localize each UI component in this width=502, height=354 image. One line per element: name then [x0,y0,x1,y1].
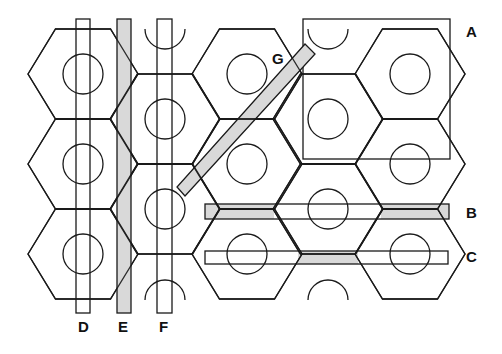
hexagon-edge-overlay [192,209,302,299]
hexagon-edge-overlay [273,164,383,254]
hexagon-circle [227,144,267,184]
hexagon [355,29,465,119]
label-e: E [118,318,128,335]
hexagon-circle [63,234,103,274]
hexagon-circle [145,99,185,139]
label-c: C [466,248,477,265]
hexagon-edge-overlay [355,29,465,119]
partial-circle-arc-top [308,29,348,49]
strip-c-shaded-segment [298,251,358,264]
hexagon [355,119,465,209]
hexagon-circle [227,234,267,274]
hexagon-lattice [28,29,465,300]
hexagon-circle [308,189,348,229]
strip-f [157,19,172,313]
label-f: F [159,318,168,335]
hexagon [273,74,383,164]
strip-d [76,19,90,313]
hexagon-circle [308,99,348,139]
label-b: B [466,204,477,221]
hexagon-circle [390,234,430,274]
partial-circle-arc-top [145,29,185,49]
hexagon-circle [145,189,185,229]
label-g: G [272,50,284,67]
hexagon-circle [63,144,103,184]
hexagon-circle [390,54,430,94]
label-a: A [466,23,477,40]
hexagon-circle [227,54,267,94]
hexagon-edge-overlay [355,119,465,209]
partial-circle-arc-bottom [308,280,348,300]
hexagon-circle [63,54,103,94]
label-d: D [78,318,89,335]
hexagon-circle [390,144,430,184]
hexagon [273,164,383,254]
hex-lattice-diagram: A B C D E F G [0,0,502,354]
partial-circle-arc-bottom [145,280,185,300]
strips-layer [28,19,465,313]
hexagon [192,209,302,299]
hexagon-edge-overlay [273,74,383,164]
